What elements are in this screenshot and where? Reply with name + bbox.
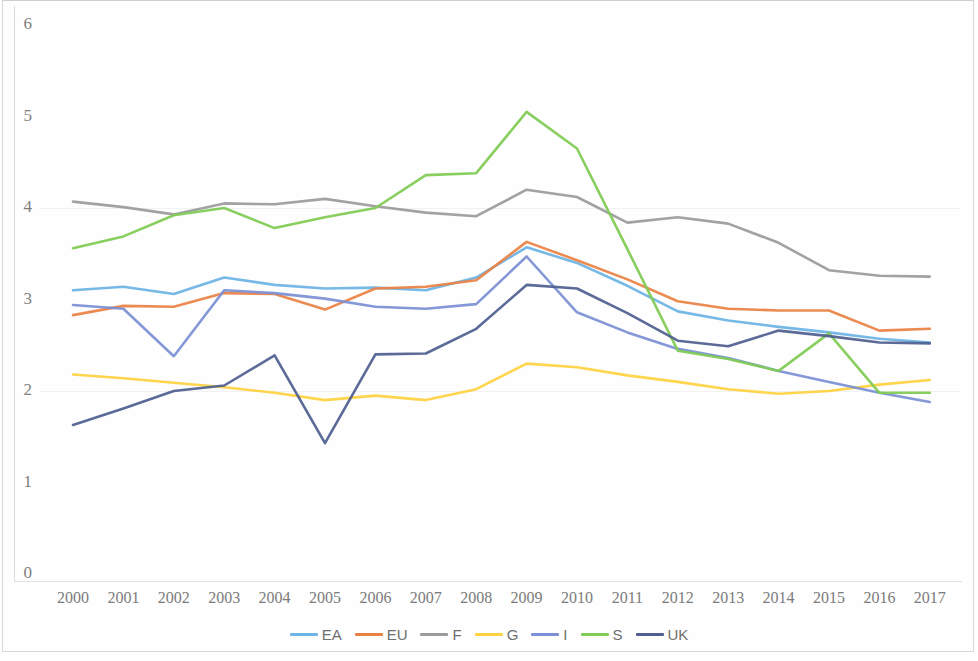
legend-label-S: S xyxy=(613,626,623,643)
legend-swatch-G xyxy=(475,633,503,636)
legend-label-I: I xyxy=(563,626,567,643)
legend-swatch-F xyxy=(420,633,448,636)
line-chart-plot-area xyxy=(0,0,978,661)
legend-label-EA: EA xyxy=(322,626,342,643)
chart-legend: EAEUFGISUK xyxy=(0,626,978,643)
legend-swatch-I xyxy=(531,633,559,636)
legend-label-UK: UK xyxy=(668,626,689,643)
legend-item-S[interactable]: S xyxy=(581,626,623,643)
legend-item-I[interactable]: I xyxy=(531,626,567,643)
legend-item-F[interactable]: F xyxy=(420,626,461,643)
legend-swatch-S xyxy=(581,633,609,636)
legend-item-G[interactable]: G xyxy=(475,626,519,643)
series-line-G xyxy=(73,364,930,401)
chart-page: 0123456 20002001200220032004200520062007… xyxy=(0,0,978,661)
legend-label-F: F xyxy=(452,626,461,643)
legend-swatch-EU xyxy=(355,633,383,636)
legend-item-EA[interactable]: EA xyxy=(290,626,342,643)
legend-label-G: G xyxy=(507,626,519,643)
legend-swatch-UK xyxy=(636,633,664,636)
legend-label-EU: EU xyxy=(387,626,408,643)
legend-item-UK[interactable]: UK xyxy=(636,626,689,643)
legend-item-EU[interactable]: EU xyxy=(355,626,408,643)
series-line-S xyxy=(73,112,930,393)
series-line-UK xyxy=(73,285,930,443)
legend-swatch-EA xyxy=(290,633,318,636)
